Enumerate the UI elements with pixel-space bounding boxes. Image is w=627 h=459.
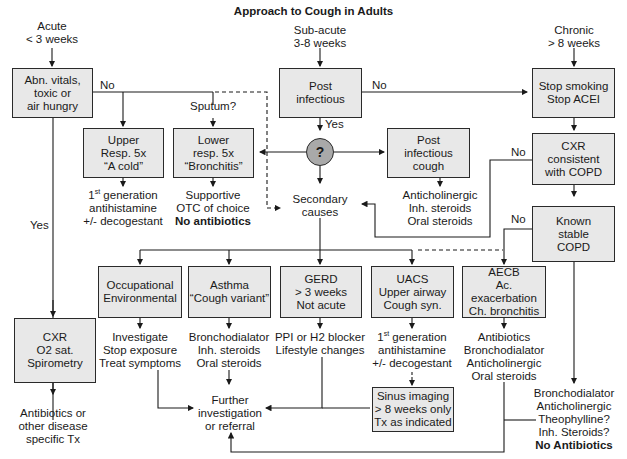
aecb-treatment: AntibioticsBronchodialatorAnticholinergi… bbox=[464, 331, 545, 383]
box-lower-resp: Lowerresp. 5x“Bronchitis” bbox=[173, 128, 254, 178]
header-acute: Acute< 3 weeks bbox=[26, 20, 78, 46]
box-post-infectious: Postinfectious bbox=[279, 68, 362, 118]
box-aecb: AECBAc. exacerbationCh. bronchitis bbox=[462, 266, 546, 318]
lower-treatment: SupportiveOTC of choiceNo antibiotics bbox=[175, 189, 251, 228]
box-uacs: UACSUpper airwayCough syn. bbox=[371, 266, 454, 318]
occupational-treatment: InvestigateStop exposureTreat symptoms bbox=[99, 331, 181, 370]
box-gerd: GERD> 3 weeksNot acute bbox=[280, 266, 362, 318]
diagram-title: Approach to Cough in Adults bbox=[0, 5, 627, 17]
further-investigation: Furtherinvestigationor referral bbox=[198, 394, 262, 433]
gerd-treatment: PPI or H2 blockerLifestyle changes bbox=[275, 331, 365, 357]
header-subacute: Sub-acute3-8 weeks bbox=[294, 24, 346, 50]
label-no-known: No bbox=[511, 213, 526, 226]
box-stop-smoking: Stop smokingStop ACEI bbox=[532, 68, 615, 118]
decision-node: ? bbox=[306, 138, 334, 166]
box-abn-vitals: Abn. vitals,toxic orair hungry bbox=[12, 68, 93, 118]
asthma-treatment: BronchodialatorInh. steroidsOral steroid… bbox=[189, 331, 270, 370]
box-post-infectious-cough: Postinfectiouscough bbox=[387, 128, 470, 178]
secondary-causes: Secondarycauses bbox=[293, 193, 348, 219]
box-occupational: OccupationalEnvironmental bbox=[98, 266, 182, 318]
label-yes-post: Yes bbox=[325, 118, 344, 131]
box-sinus: Sinus imaging> 8 weeks onlyTx as indicat… bbox=[372, 387, 454, 432]
box-asthma: Asthma“Cough variant” bbox=[188, 266, 271, 318]
upper-treatment: 1st generationantihistamine+/- decogesta… bbox=[83, 189, 163, 228]
box-cxr-copd: CXRconsistentwith COPD bbox=[532, 133, 615, 185]
label-no-post: No bbox=[372, 79, 387, 92]
label-no-cxr: No bbox=[511, 146, 526, 159]
label-sputum: Sputum? bbox=[190, 100, 236, 113]
box-known-copd: KnownstableCOPD bbox=[532, 206, 615, 262]
copd-treatment: BronchodialatorAnticholinergicTheophylli… bbox=[534, 387, 615, 452]
acute-treatment: Antibiotics orother diseasespecific Tx bbox=[18, 407, 87, 446]
post-treatment: AnticholinergicInh. steroidsOral steroid… bbox=[403, 189, 478, 228]
header-chronic: Chronic> 8 weeks bbox=[548, 24, 600, 50]
box-cxr-o2: CXRO2 sat.Spirometry bbox=[14, 318, 96, 383]
box-upper-resp: UpperResp. 5x“A cold” bbox=[83, 128, 164, 178]
label-no-abn: No bbox=[100, 79, 115, 92]
uacs-treatment: 1st generationantihistamine+/- decogesta… bbox=[372, 331, 452, 370]
label-yes-abn: Yes bbox=[30, 219, 49, 232]
